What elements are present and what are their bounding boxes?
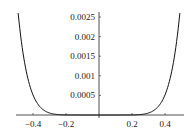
y-tick-label: 0.0025 — [70, 12, 95, 22]
x-tick-label: −0.2 — [58, 119, 74, 129]
y-tick-label: 0.0015 — [70, 51, 95, 61]
x-tick-label: 0.2 — [126, 119, 137, 129]
y-tick-label: 0.001 — [75, 71, 95, 81]
x-tick-label: −0.4 — [25, 119, 42, 129]
plot: −0.4−0.20.20.4 0.00050.0010.00150.0020.0… — [0, 0, 191, 134]
x-tick-label: 0.4 — [159, 119, 171, 129]
y-tick-label: 0.0005 — [70, 90, 95, 100]
y-ticks: 0.00050.0010.00150.0020.0025 — [70, 12, 101, 100]
y-tick-label: 0.002 — [75, 32, 95, 42]
